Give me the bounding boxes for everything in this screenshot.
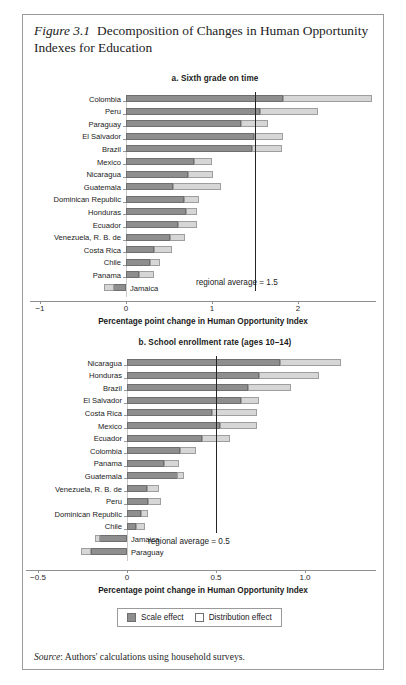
category-label: Panama: [94, 460, 122, 467]
bar-segment-distribution-effect: [283, 95, 372, 102]
category-label: Costa Rica: [85, 410, 122, 417]
bar-segment-distribution-effect: [184, 196, 199, 203]
bar-segment-scale-effect: [126, 120, 241, 127]
bar-segment-scale-effect: [126, 183, 173, 190]
x-axis-tick-label: 2: [283, 304, 313, 313]
bar-segment-distribution-effect: [104, 284, 114, 291]
legend-label-scale-effect: Scale effect: [141, 613, 184, 622]
bar-segment-distribution-effect: [81, 548, 92, 555]
bar-segment-scale-effect: [126, 171, 188, 178]
category-label: Chile: [105, 523, 122, 530]
bar-segment-distribution-effect: [154, 246, 172, 253]
bar-segment-scale-effect: [126, 221, 178, 228]
bar-segment-scale-effect: [127, 447, 180, 454]
category-label: Nicaragua: [87, 360, 122, 367]
bar-segment-scale-effect: [126, 145, 252, 152]
figure-number: Figure 3.1: [34, 23, 90, 38]
bar-segment-distribution-effect: [186, 208, 196, 215]
bar-segment-scale-effect: [127, 498, 148, 505]
figure-page: Figure 3.1Decomposition of Changes in Hu…: [0, 0, 406, 685]
bar-segment-scale-effect: [127, 485, 147, 492]
bar-segment-distribution-effect: [252, 145, 281, 152]
bar-segment-scale-effect: [127, 359, 280, 366]
x-axis-tick-label: 0: [112, 573, 142, 582]
category-label: Mexico: [98, 423, 122, 430]
bar-segment-scale-effect: [126, 133, 254, 140]
bar-segment-distribution-effect: [139, 271, 154, 278]
bar-segment-scale-effect: [127, 384, 248, 391]
category-label: Brazil: [102, 146, 121, 153]
x-axis-title: Percentage point change in Human Opportu…: [30, 317, 376, 326]
chart-legend: Scale effect Distribution effect: [117, 608, 282, 627]
regional-average-label: regional average = 0.5: [148, 537, 230, 546]
bar-segment-scale-effect: [127, 523, 136, 530]
bar-segment-distribution-effect: [194, 158, 212, 165]
category-label: Ecuador: [94, 435, 122, 442]
bar-segment-scale-effect: [127, 422, 220, 429]
bar-segment-distribution-effect: [173, 183, 220, 190]
category-label: Guatemala: [85, 473, 122, 480]
bar-segment-distribution-effect: [254, 133, 282, 140]
category-label: Honduras: [88, 209, 121, 216]
bar-segment-distribution-effect: [280, 359, 341, 366]
bar-segment-scale-effect: [127, 510, 141, 517]
chart-school-enrollment-rate: NicaraguaHondurasBrazilEl SalvadorCosta …: [0, 348, 406, 593]
bar-segment-scale-effect: [127, 472, 184, 479]
category-label: Mexico: [97, 159, 121, 166]
category-label: Peru: [106, 498, 122, 505]
x-axis-tick-label: 1: [197, 304, 227, 313]
regional-average-line: [255, 92, 256, 291]
category-label: Jamaica: [130, 285, 158, 292]
bar-segment-scale-effect: [126, 208, 186, 215]
category-label: Paraguay: [88, 121, 121, 128]
category-label: Paraguay: [131, 549, 164, 556]
bar-segment-distribution-effect: [241, 397, 259, 404]
category-label: Honduras: [89, 372, 122, 379]
x-axis-tick-label: −1: [25, 304, 55, 313]
bar-segment-distribution-effect: [220, 422, 257, 429]
bar-segment-distribution-effect: [95, 535, 100, 542]
legend-item-distribution-effect: Distribution effect: [195, 613, 272, 622]
bar-segment-distribution-effect: [212, 409, 257, 416]
bar-segment-distribution-effect: [150, 259, 159, 266]
x-axis-tick-label: 1.0: [290, 573, 320, 582]
x-axis-line: [30, 301, 376, 302]
bar-segment-scale-effect: [127, 460, 164, 467]
regional-average-line: [216, 356, 217, 533]
category-label: Dominican Republic: [54, 511, 122, 518]
bar-segment-scale-effect: [127, 409, 212, 416]
x-axis-title: Percentage point change in Human Opportu…: [30, 586, 376, 595]
bar-segment-scale-effect: [126, 271, 139, 278]
legend-label-distribution-effect: Distribution effect: [209, 613, 272, 622]
x-axis-tick-label: 0: [111, 304, 141, 313]
distribution-effect-swatch-icon: [195, 613, 204, 622]
legend-item-scale-effect: Scale effect: [127, 613, 184, 622]
category-label: Venezuela, R. B. de: [55, 486, 122, 493]
bar-segment-scale-effect: [126, 246, 154, 253]
panel-b-title: b. School enrollment rate (ages 10–14): [90, 338, 340, 347]
category-label: Colombia: [90, 448, 122, 455]
source-label: Source: [34, 651, 60, 662]
source-note: Source: Authors' calculations using hous…: [34, 651, 245, 662]
bar-segment-scale-effect: [127, 397, 241, 404]
scale-effect-swatch-icon: [127, 613, 136, 622]
bar-segment-scale-effect: [126, 95, 283, 102]
bar-segment-scale-effect: [127, 435, 202, 442]
category-label: Chile: [104, 259, 121, 266]
category-label: Peru: [105, 108, 121, 115]
bar-segment-scale-effect: [127, 372, 259, 379]
x-axis-tick-label: 0.5: [201, 573, 231, 582]
panel-a-title: a. Sixth grade on time: [100, 74, 330, 83]
category-label: Venezuela, R. B. de: [54, 234, 121, 241]
category-label: Guatemala: [84, 184, 121, 191]
bar-segment-distribution-effect: [141, 510, 148, 517]
bar-segment-scale-effect: [126, 196, 184, 203]
category-label: El Salvador: [83, 397, 122, 404]
bar-segment-distribution-effect: [180, 447, 196, 454]
bar-segment-scale-effect: [126, 158, 194, 165]
bar-segment-scale-effect: [126, 259, 150, 266]
category-label: Colombia: [89, 96, 121, 103]
x-axis-tick-label: −0.5: [23, 573, 53, 582]
bar-segment-distribution-effect: [136, 523, 145, 530]
bar-segment-scale-effect: [126, 234, 170, 241]
